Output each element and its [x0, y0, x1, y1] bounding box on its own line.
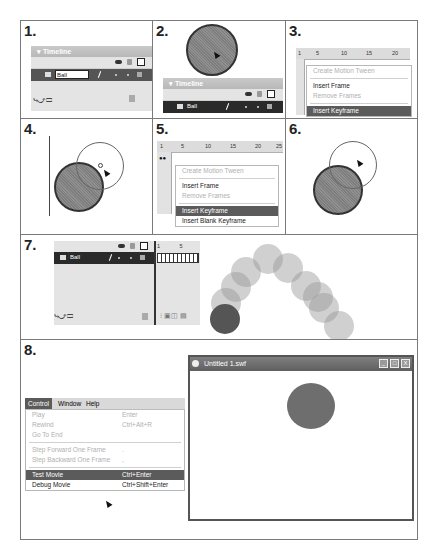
menu-separator	[310, 103, 408, 104]
menu-label: Rewind	[32, 421, 54, 428]
menu-separator	[310, 78, 408, 79]
menu-shortcut: Enter	[122, 410, 138, 420]
trash-icon[interactable]	[129, 95, 135, 102]
timeline-title-bar[interactable]: ▾ Timeline	[31, 46, 153, 57]
menu-separator	[29, 442, 181, 443]
layer-name: Ball	[57, 72, 67, 78]
menu-item-debug-movie[interactable]: Debug MovieCtrl+Shift+Enter	[26, 480, 184, 490]
ruler-tick: 25	[276, 143, 282, 149]
outline-icon[interactable]	[140, 242, 148, 250]
visibility-dot[interactable]	[118, 257, 120, 259]
eye-icon[interactable]	[115, 60, 122, 64]
menu-item-test-movie[interactable]: Test MovieCtrl+Enter	[26, 470, 184, 480]
menu-label: Debug Movie	[32, 481, 70, 488]
visibility-dot[interactable]	[115, 74, 117, 76]
menu-item-create-motion-tween[interactable]: Create Motion Tween	[307, 66, 411, 76]
menu-item-step-backward[interactable]: Step Backward One Frame,	[26, 455, 184, 465]
menu-item-insert-keyframe[interactable]: Insert Keyframe	[307, 106, 411, 116]
timeline-title: Timeline	[43, 48, 71, 55]
menu-label: Go To End	[32, 431, 63, 438]
menu-shortcut: ,	[122, 455, 124, 465]
step-number: 2.	[156, 22, 169, 39]
outline-square[interactable]	[137, 72, 142, 77]
ruler: 1 5 10 15 20 25	[157, 141, 283, 153]
menu-item-remove-frames[interactable]: Remove Frames	[307, 91, 411, 101]
window-title-bar[interactable]: Untitled 1.swf _ □ X	[190, 357, 412, 371]
ruler-tick: 20	[392, 50, 398, 56]
frame-ruler: 1 5 10 15 20	[296, 48, 410, 60]
visibility-dot[interactable]	[245, 106, 247, 108]
step-number: 5.	[156, 120, 169, 137]
menu-item-insert-blank-keyframe[interactable]: Insert Blank Keyframe	[176, 216, 278, 226]
menu-item-play[interactable]: PlayEnter	[26, 410, 184, 420]
layer-row[interactable]: Ball	[31, 69, 153, 81]
step-3-panel: 3. 1 5 10 15 20 Create Motion Tween Inse…	[285, 20, 418, 119]
window-title: Untitled 1.swf	[204, 360, 246, 367]
layer-name: Ball	[187, 103, 197, 109]
context-menu: Create Motion Tween Insert Frame Remove …	[306, 65, 412, 117]
step-number: 4.	[24, 120, 37, 137]
outline-square[interactable]	[267, 104, 272, 109]
frames-ruler: 1 5	[157, 243, 183, 249]
lock-icon[interactable]	[130, 243, 135, 249]
menu-item-create-motion-tween[interactable]: Create Motion Tween	[176, 166, 278, 176]
onion-skin-icons[interactable]: ⁝ ▣◫ ▤	[160, 312, 187, 320]
lock-dot[interactable]	[130, 257, 132, 259]
menubar: Control Window Help	[25, 398, 185, 410]
trash-icon[interactable]	[142, 313, 148, 320]
menu-area: Control Window Help PlayEnter RewindCtrl…	[25, 398, 185, 410]
layer-icon	[60, 255, 66, 260]
outline-icon[interactable]	[267, 90, 275, 98]
timeline-panel: Ball 1 5 ⤷⤻▭ ⁝ ▣◫ ▤	[54, 241, 200, 325]
menu-item-rewind[interactable]: RewindCtrl+Alt+R	[26, 420, 184, 430]
minimize-button[interactable]: _	[379, 359, 388, 368]
timeline-divider[interactable]	[154, 241, 156, 325]
close-button[interactable]: X	[401, 359, 410, 368]
step-2-panel: 2. ▾ Timeline Ball	[152, 20, 286, 119]
eye-icon[interactable]	[118, 244, 125, 248]
lock-dot[interactable]	[127, 74, 129, 76]
layer-icon	[177, 104, 183, 109]
timeline-panel: ▾ Timeline Ball	[163, 78, 283, 119]
ball-outline-ghost[interactable]	[329, 141, 377, 189]
menu-item-insert-keyframe[interactable]: Insert Keyframe	[176, 206, 278, 216]
menu-item-remove-frames[interactable]: Remove Frames	[176, 191, 278, 201]
outline-icon[interactable]	[137, 58, 145, 66]
menu-item-insert-frame[interactable]: Insert Frame	[176, 181, 278, 191]
menu-control[interactable]: Control	[25, 398, 52, 409]
ruler: 1 5 10 15 20	[296, 48, 410, 60]
add-layer-icons[interactable]: ⤷⤻▭	[33, 95, 52, 105]
timeline-title-bar[interactable]: ▾ Timeline	[163, 78, 283, 89]
ruler-tick: 5	[181, 143, 184, 149]
ball-shape[interactable]	[186, 24, 238, 76]
menu-window[interactable]: Window	[55, 398, 84, 409]
menu-help[interactable]: Help	[83, 398, 102, 409]
ruler-tick: 5	[180, 243, 183, 249]
lock-dot[interactable]	[257, 106, 259, 108]
lock-icon[interactable]	[127, 59, 132, 65]
outline-square[interactable]	[140, 255, 145, 260]
lock-icon[interactable]	[257, 91, 262, 97]
menu-item-insert-frame[interactable]: Insert Frame	[307, 81, 411, 91]
layer-row[interactable]: Ball	[163, 101, 283, 113]
ruler-tick: 10	[341, 50, 347, 56]
ruler-tick: 20	[255, 143, 261, 149]
flash-player-icon	[192, 360, 199, 367]
layer-name-input[interactable]: Ball	[55, 70, 89, 79]
eye-icon[interactable]	[245, 92, 252, 96]
ruler-tick: 10	[205, 143, 211, 149]
add-layer-icons[interactable]: ⤷⤻▭	[54, 311, 73, 321]
timeline-track	[157, 152, 172, 214]
menu-label: Step Forward One Frame	[32, 446, 106, 453]
layer-row[interactable]: Ball	[54, 252, 154, 264]
keyframe-strip[interactable]	[157, 253, 199, 263]
maximize-button[interactable]: □	[390, 359, 399, 368]
menu-item-step-forward[interactable]: Step Forward One Frame.	[26, 445, 184, 455]
menu-item-go-to-end[interactable]: Go To End	[26, 430, 184, 440]
menu-shortcut: Ctrl+Enter	[122, 470, 151, 480]
pointer-cursor-icon	[104, 499, 113, 508]
swf-player-window: Untitled 1.swf _ □ X	[188, 355, 414, 521]
step-1-panel: 1. ▾ Timeline Ball ⤷⤻▭	[20, 20, 153, 119]
step-5-panel: 5. 1 5 10 15 20 25 ●● Create Motion Twee…	[152, 118, 286, 235]
timeline-header	[163, 89, 283, 101]
